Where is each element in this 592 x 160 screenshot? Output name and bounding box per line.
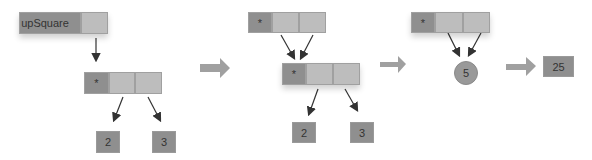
top-operator-node: * <box>411 12 490 33</box>
node-left-cell <box>435 12 463 33</box>
top-operator-node: * <box>248 12 326 33</box>
pointer-arrow <box>301 35 313 58</box>
pointer-arrow <box>448 33 459 55</box>
pointer-arrow <box>148 97 160 120</box>
node-right-cell <box>299 12 326 33</box>
transition-arrow <box>380 56 406 73</box>
operator-label: * <box>282 63 306 85</box>
operator-label: * <box>84 72 109 94</box>
value-circle: 5 <box>454 61 478 85</box>
leaf-value: 2 <box>96 131 120 153</box>
node-left-cell <box>109 72 135 94</box>
head-label: upSquare <box>19 12 71 34</box>
pointer-arrow <box>309 89 318 114</box>
transition-arrow <box>200 58 230 78</box>
head-box: upSquare <box>19 12 108 34</box>
operator-label: * <box>248 12 272 33</box>
result-box: 25 <box>543 56 574 77</box>
operator-label: * <box>411 12 435 33</box>
pointer-arrow <box>345 89 357 110</box>
node-right-cell <box>463 12 490 33</box>
operator-node: * <box>84 72 162 94</box>
pointer-arrow <box>469 33 481 55</box>
node-left-cell <box>272 12 299 33</box>
operator-node: * <box>282 63 360 85</box>
node-left-cell <box>306 63 333 85</box>
leaf-value: 3 <box>350 122 374 143</box>
leaf-value: 3 <box>152 131 176 153</box>
transition-arrow <box>506 57 536 76</box>
pointer-arrow <box>114 97 123 120</box>
head-pointer-cell <box>81 12 108 34</box>
leaf-value: 2 <box>292 122 316 143</box>
node-right-cell <box>135 72 162 94</box>
pointer-arrow <box>281 35 294 58</box>
node-right-cell <box>333 63 360 85</box>
